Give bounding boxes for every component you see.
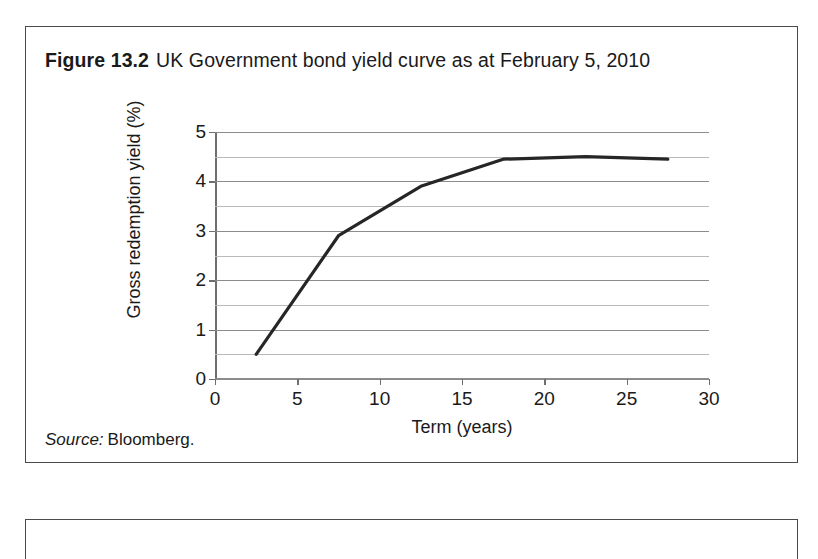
x-tick-label: 15 [451, 388, 472, 410]
figure-caption: Figure 13.2UK Government bond yield curv… [45, 49, 650, 72]
x-tick-label: 25 [616, 388, 637, 410]
figure-box: Figure 13.2UK Government bond yield curv… [25, 26, 798, 463]
y-tick-label: 4 [195, 170, 206, 192]
x-tick-mark [709, 379, 710, 385]
y-tick-label: 2 [195, 269, 206, 291]
x-tick-mark [297, 379, 298, 385]
x-tick-label: 10 [369, 388, 390, 410]
figure-title: UK Government bond yield curve as at Feb… [156, 49, 650, 71]
plot-area: 012345 051015202530 Term (years) [215, 132, 709, 379]
y-axis-title: Gross redemption yield (%) [124, 80, 145, 340]
x-tick-mark [215, 379, 216, 385]
chart-area: Gross redemption yield (%) 012345 051015… [66, 79, 766, 424]
yield-curve-line [215, 132, 709, 379]
source-note: Source:Bloomberg. [45, 430, 195, 450]
figure-label: Figure 13.2 [45, 49, 149, 71]
x-tick-label: 5 [292, 388, 303, 410]
x-tick-label: 30 [698, 388, 719, 410]
x-tick-mark [627, 379, 628, 385]
source-label: Source: [45, 430, 104, 449]
x-tick-label: 20 [534, 388, 555, 410]
y-tick-label: 5 [195, 121, 206, 143]
next-figure-box-partial [25, 519, 798, 559]
y-tick-label: 0 [195, 368, 206, 390]
y-tick-label: 3 [195, 220, 206, 242]
x-axis-title: Term (years) [215, 417, 709, 438]
x-tick-mark [380, 379, 381, 385]
y-tick-label: 1 [195, 319, 206, 341]
x-tick-mark [462, 379, 463, 385]
source-value: Bloomberg. [108, 430, 195, 449]
x-tick-label: 0 [210, 388, 221, 410]
x-tick-mark [544, 379, 545, 385]
